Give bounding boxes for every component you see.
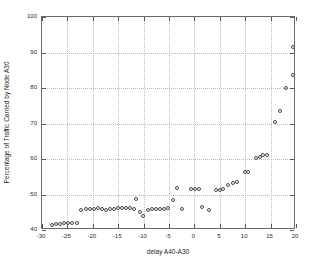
x-gridline <box>93 17 94 228</box>
data-point-marker <box>291 73 295 77</box>
y-axis-tick-right <box>290 195 294 196</box>
x-axis-tick-label: 5 <box>217 232 220 240</box>
y-axis-tick-right <box>290 124 294 125</box>
x-gridline <box>118 17 119 228</box>
x-axis-tick <box>271 224 272 228</box>
x-axis-tick <box>296 224 297 228</box>
y-axis-tick <box>42 195 46 196</box>
y-axis-tick-label: 80 <box>14 83 37 91</box>
x-axis-tick-top <box>245 17 246 21</box>
x-axis-tick <box>93 224 94 228</box>
x-axis-tick <box>245 224 246 228</box>
data-point-marker <box>171 198 175 202</box>
x-axis-tick-label: 0 <box>192 232 195 240</box>
plot-area <box>41 16 295 229</box>
x-axis-tick <box>220 224 221 228</box>
y-axis-tick <box>42 230 46 231</box>
x-gridline <box>194 17 195 228</box>
y-axis-tick <box>42 88 46 89</box>
data-point-marker <box>284 86 288 90</box>
data-point-marker <box>291 45 295 49</box>
y-axis-label-text: Percentage of Traffic Carried by Node A3… <box>3 61 10 183</box>
x-axis-tick-top <box>296 17 297 21</box>
data-point-marker <box>207 208 211 212</box>
y-axis-tick-right <box>290 88 294 89</box>
y-axis-tick <box>42 159 46 160</box>
data-point-marker <box>278 109 282 113</box>
data-point-marker <box>132 207 136 211</box>
x-gridline <box>220 17 221 228</box>
x-axis-tick <box>42 224 43 228</box>
x-axis-tick-top <box>271 17 272 21</box>
data-point-marker <box>180 207 184 211</box>
y-axis-tick-right <box>290 159 294 160</box>
y-axis-tick-label: 60 <box>14 154 37 162</box>
data-point-marker <box>231 181 235 185</box>
y-axis-tick-label: 90 <box>14 48 37 56</box>
x-axis-tick-top <box>118 17 119 21</box>
scatter-chart-figure: Percentage of Traffic Carried by Node A3… <box>0 0 317 266</box>
y-axis-tick-label: 40 <box>14 225 37 233</box>
data-point-marker <box>141 214 145 218</box>
x-axis-tick-label: -30 <box>37 232 46 240</box>
x-gridline <box>67 17 68 228</box>
y-gridline <box>42 195 294 196</box>
x-axis-tick-label: -25 <box>62 232 71 240</box>
x-axis-label: delay A40-A30 <box>41 247 295 256</box>
x-axis-tick-label: -10 <box>138 232 147 240</box>
y-axis-tick <box>42 17 46 18</box>
data-point-marker <box>138 210 142 214</box>
data-point-marker <box>235 180 239 184</box>
y-axis-tick-label: 100 <box>14 12 37 20</box>
data-point-marker <box>273 120 277 124</box>
x-axis-tick <box>194 224 195 228</box>
y-axis-tick <box>42 53 46 54</box>
x-gridline <box>245 17 246 228</box>
x-axis-tick-top <box>144 17 145 21</box>
y-gridline <box>42 53 294 54</box>
x-axis-tick-top <box>93 17 94 21</box>
y-gridline <box>42 88 294 89</box>
data-point-marker <box>175 186 179 190</box>
data-point-marker <box>197 187 201 191</box>
x-axis-tick-top <box>169 17 170 21</box>
y-axis-tick-right <box>290 53 294 54</box>
x-gridline <box>271 17 272 228</box>
x-axis-tick-label: 10 <box>241 232 248 240</box>
x-axis-tick-label: -20 <box>87 232 96 240</box>
y-axis-label: Percentage of Traffic Carried by Node A3… <box>0 16 12 229</box>
data-point-marker <box>221 187 225 191</box>
y-axis-tick-label: 70 <box>14 119 37 127</box>
y-gridline <box>42 124 294 125</box>
data-point-marker <box>75 221 79 225</box>
x-axis-tick-label: 15 <box>266 232 273 240</box>
x-axis-tick <box>144 224 145 228</box>
x-axis-tick-label: -15 <box>113 232 122 240</box>
data-point-marker <box>200 205 204 209</box>
x-axis-tick <box>118 224 119 228</box>
x-gridline <box>144 17 145 228</box>
y-axis-tick-right <box>290 17 294 18</box>
y-axis-tick-right <box>290 230 294 231</box>
y-axis-tick-label: 50 <box>14 190 37 198</box>
x-gridline <box>169 17 170 228</box>
x-axis-tick-label: -5 <box>165 232 170 240</box>
x-axis-tick-label: 20 <box>292 232 299 240</box>
data-point-marker <box>70 221 74 225</box>
data-point-marker <box>265 153 269 157</box>
x-axis-tick <box>169 224 170 228</box>
y-axis-tick <box>42 124 46 125</box>
x-axis-tick-top <box>194 17 195 21</box>
data-point-marker <box>246 170 250 174</box>
data-point-marker <box>79 208 83 212</box>
data-point-marker <box>226 183 230 187</box>
data-point-marker <box>134 197 138 201</box>
x-axis-tick-top <box>67 17 68 21</box>
x-axis-tick-top <box>220 17 221 21</box>
